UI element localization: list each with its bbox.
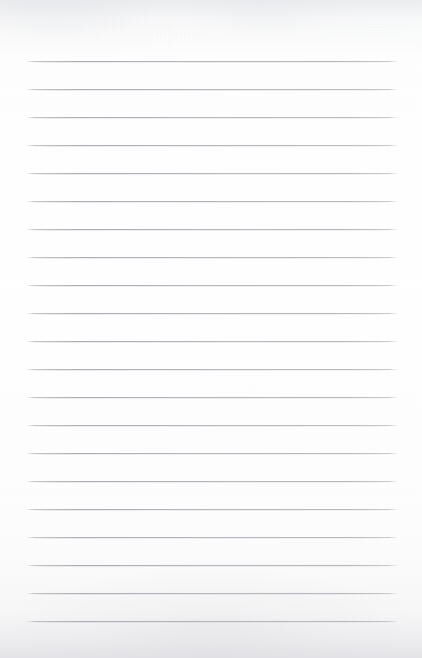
ruled-line: [26, 117, 398, 118]
ruled-line: [26, 621, 398, 622]
ruled-line: [26, 313, 398, 314]
ruled-line: [26, 509, 398, 510]
ruled-lines-group: [0, 0, 422, 658]
ruled-line: [26, 341, 398, 342]
ruled-line: [26, 397, 398, 398]
ruled-line: [26, 61, 398, 62]
ruled-line: [26, 229, 398, 230]
ruled-line: [26, 201, 398, 202]
ruled-line: [26, 481, 398, 482]
ruled-line: [26, 565, 398, 566]
ruled-line: [26, 257, 398, 258]
ruled-line: [26, 285, 398, 286]
notepad-page: [0, 0, 422, 658]
ruled-line: [26, 537, 398, 538]
ruled-line: [26, 89, 398, 90]
ruled-line: [26, 453, 398, 454]
ruled-line: [26, 593, 398, 594]
ruled-line: [26, 145, 398, 146]
ruled-line: [26, 369, 398, 370]
ruled-line: [26, 173, 398, 174]
ruled-line: [26, 425, 398, 426]
